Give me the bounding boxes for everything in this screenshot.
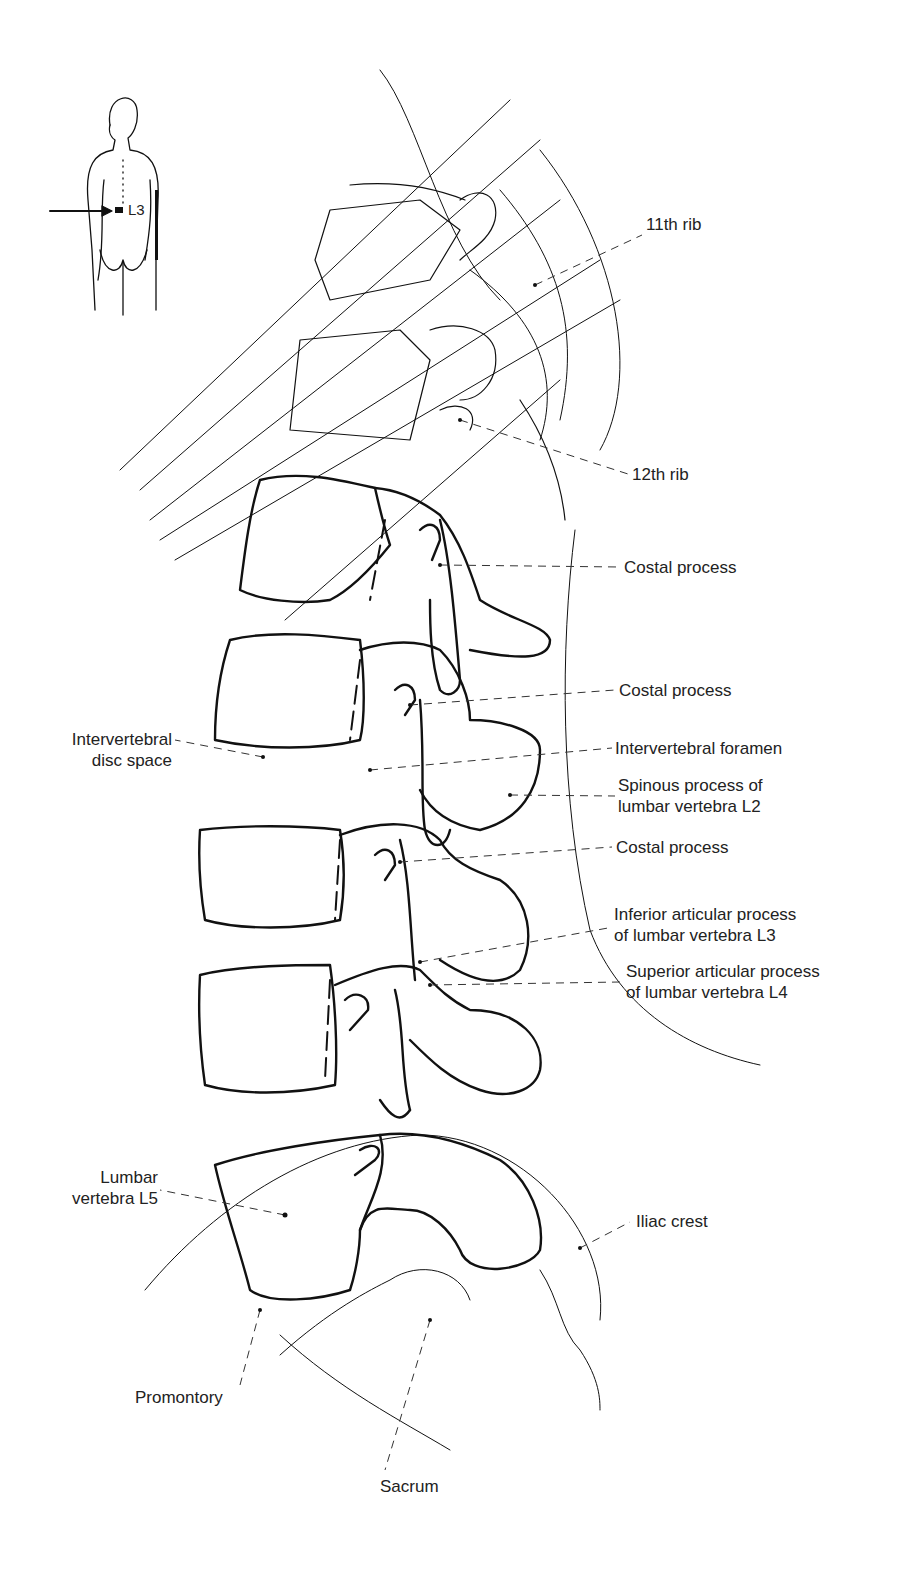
label-intervertebral-disc-space: Intervertebral disc space bbox=[40, 729, 172, 771]
leader-lines bbox=[160, 235, 642, 1470]
thoracic-vertebrae bbox=[290, 184, 565, 520]
label-12th-rib: 12th rib bbox=[632, 464, 689, 485]
label-costal-process-3: Costal process bbox=[616, 837, 728, 858]
label-line: Spinous process of bbox=[618, 775, 763, 796]
leader-dots bbox=[258, 283, 582, 1322]
label-intervertebral-foramen: Intervertebral foramen bbox=[615, 738, 782, 759]
inset-level-label: L3 bbox=[128, 201, 145, 218]
lumbar-vertebrae bbox=[199, 476, 550, 1300]
label-line: disc space bbox=[40, 750, 172, 771]
lumbar-spine-illustration bbox=[0, 0, 921, 1572]
label-line: of lumbar vertebra L3 bbox=[614, 925, 796, 946]
label-line: vertebra L5 bbox=[40, 1188, 158, 1209]
label-line: Lumbar bbox=[40, 1167, 158, 1188]
label-11th-rib: 11th rib bbox=[646, 214, 701, 235]
label-line: of lumbar vertebra L4 bbox=[626, 982, 820, 1003]
label-line: Intervertebral bbox=[40, 729, 172, 750]
label-iliac-crest: Iliac crest bbox=[636, 1211, 708, 1232]
label-lumbar-vertebra-l5: Lumbar vertebra L5 bbox=[40, 1167, 158, 1209]
label-costal-process-2: Costal process bbox=[619, 680, 731, 701]
label-line: Inferior articular process bbox=[614, 904, 796, 925]
label-line: Superior articular process bbox=[626, 961, 820, 982]
label-inferior-articular-process-l3: Inferior articular process of lumbar ver… bbox=[614, 904, 796, 946]
label-spinous-process-l2: Spinous process of lumbar vertebra L2 bbox=[618, 775, 763, 817]
label-line: lumbar vertebra L2 bbox=[618, 796, 763, 817]
label-sacrum: Sacrum bbox=[380, 1476, 439, 1497]
label-promontory: Promontory bbox=[135, 1387, 223, 1408]
rib-lines bbox=[120, 70, 760, 1450]
label-costal-process-1: Costal process bbox=[624, 557, 736, 578]
label-superior-articular-process-l4: Superior articular process of lumbar ver… bbox=[626, 961, 820, 1003]
